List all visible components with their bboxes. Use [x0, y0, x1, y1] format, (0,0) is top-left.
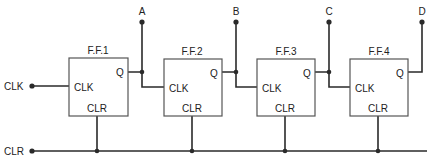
ff1-q-pin: Q [116, 67, 124, 78]
junction-dot [140, 70, 145, 75]
ff3-clk-pin: CLK [262, 83, 282, 94]
junction-dot [95, 149, 100, 154]
q2-to-clk3-wire [222, 72, 257, 87]
ff2-title: F.F.2 [181, 46, 203, 57]
output-d-dot [419, 19, 424, 24]
ff2-q-pin: Q [210, 68, 218, 79]
output-d-label: D [418, 6, 425, 17]
ff4-q-pin: Q [396, 68, 404, 79]
ff4-title: F.F.4 [368, 46, 390, 57]
ff4-clk-pin: CLK [355, 83, 375, 94]
output-a-label: A [139, 6, 146, 17]
junction-dot [327, 70, 332, 75]
ff1-title: F.F.1 [87, 45, 109, 56]
output-a-dot [139, 19, 144, 24]
clr-terminal-dot [29, 148, 34, 153]
counter-diagram: CLK CLR A B C D F.F.1 F.F.2 F.F.3 F.F.4 … [0, 0, 427, 162]
junction-dot [283, 149, 288, 154]
ff3-clr-pin: CLR [275, 103, 295, 114]
clr-input-label: CLR [4, 146, 24, 157]
output-c-label: C [325, 6, 332, 17]
q3-to-clk4-wire [315, 72, 350, 87]
clk-input-label: CLK [4, 81, 24, 92]
junction-dot [376, 149, 381, 154]
ff4-clr-pin: CLR [368, 103, 388, 114]
ff3-title: F.F.3 [275, 46, 297, 57]
output-c-dot [326, 19, 331, 24]
q1-to-clk2-wire [128, 72, 164, 87]
ff2-clk-pin: CLK [169, 83, 189, 94]
junction-dot [190, 149, 195, 154]
ff3-q-pin: Q [303, 68, 311, 79]
output-b-dot [233, 19, 238, 24]
output-b-label: B [233, 6, 240, 17]
clk-terminal-dot [29, 83, 34, 88]
ff1-clr-pin: CLR [87, 103, 107, 114]
ff1-clk-pin: CLK [74, 82, 94, 93]
junction-dot [234, 70, 239, 75]
output-d-wire [408, 22, 422, 72]
ff2-clr-pin: CLR [182, 103, 202, 114]
